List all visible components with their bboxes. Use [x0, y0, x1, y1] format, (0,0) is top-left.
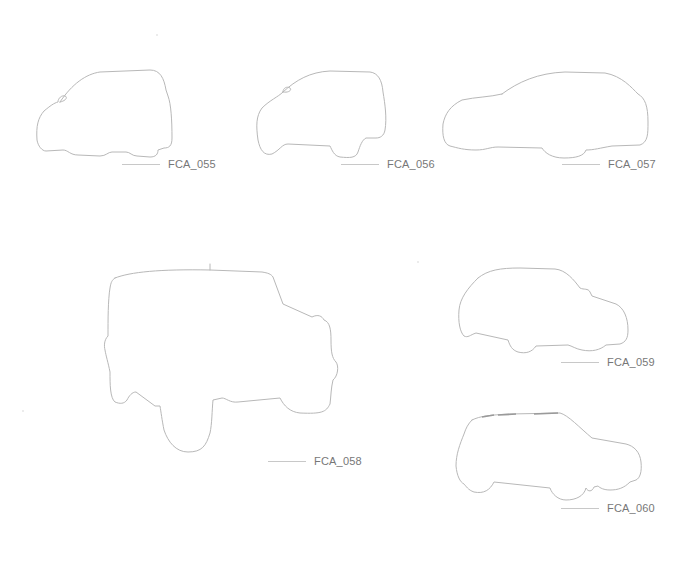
- vehicle-outline-fca-056: [257, 71, 386, 157]
- caption-fca-057: FCA_057: [562, 158, 656, 170]
- caption-rule: [562, 164, 600, 165]
- caption-fca-059: FCA_059: [561, 356, 655, 368]
- caption-rule: [561, 362, 599, 363]
- vehicle-label: FCA_057: [608, 158, 656, 170]
- caption-fca-060: FCA_060: [561, 502, 655, 514]
- vehicle-label: FCA_056: [387, 158, 435, 170]
- caption-fca-056: FCA_056: [341, 158, 435, 170]
- stray-mark: [417, 261, 419, 263]
- caption-rule: [122, 164, 160, 165]
- vehicle-label: FCA_059: [607, 356, 655, 368]
- vehicle-outline-fca-055: [37, 70, 172, 157]
- caption-rule: [561, 508, 599, 509]
- vehicle-label: FCA_060: [607, 502, 655, 514]
- silhouette-canvas: [0, 0, 675, 571]
- vehicle-outline-fca-058: [104, 264, 337, 452]
- vehicle-outline-fca-060: [456, 413, 641, 500]
- vehicle-label: FCA_055: [168, 158, 216, 170]
- silhouette-sheet: FCA_055 FCA_056 FCA_057 FCA_058 FCA_059 …: [0, 0, 675, 571]
- caption-fca-058: FCA_058: [268, 455, 362, 467]
- vehicle-outline-fca-059: [459, 268, 628, 353]
- vehicle-outline-fca-057: [443, 72, 648, 158]
- caption-rule: [268, 461, 306, 462]
- vehicle-label: FCA_058: [314, 455, 362, 467]
- stray-mark: [156, 34, 158, 36]
- stray-mark: [22, 410, 24, 412]
- caption-fca-055: FCA_055: [122, 158, 216, 170]
- caption-rule: [341, 164, 379, 165]
